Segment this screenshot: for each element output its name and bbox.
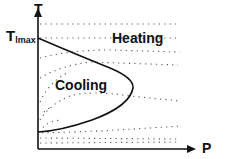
t-lmax-marker: Tlmax xyxy=(6,28,36,43)
cooling-region-label: Cooling xyxy=(55,78,107,92)
t-lmax-sub: lmax xyxy=(15,35,36,45)
phase-diagram xyxy=(0,0,225,159)
t-lmax-main: T xyxy=(6,27,15,44)
y-axis-label: T xyxy=(34,2,43,16)
x-axis-label: P xyxy=(202,141,211,155)
x-axis-arrow-icon xyxy=(187,145,196,153)
heating-region-label: Heating xyxy=(112,31,163,45)
